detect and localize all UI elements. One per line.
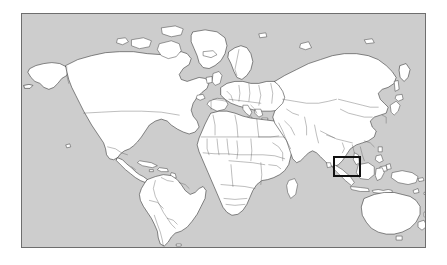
landmass-tasmania	[396, 236, 402, 240]
landmass-new-zealand-south	[418, 220, 425, 230]
landmass-hokkaido	[395, 94, 403, 101]
continent-asia	[273, 54, 410, 172]
landmass-jamaica	[149, 170, 153, 172]
landmass-kamchatka	[399, 64, 410, 82]
landmass-newfoundland	[196, 94, 205, 100]
world-map-svg	[22, 14, 425, 247]
landmass-solomon-islands	[418, 178, 424, 182]
landmass-new-siberian-islands	[364, 39, 374, 44]
landmass-fiji	[424, 191, 425, 194]
landmass-madagascar	[287, 179, 298, 199]
landmass-victoria-island	[131, 38, 151, 49]
landmass-hispaniola	[157, 168, 168, 172]
landmass-falklands	[176, 244, 181, 246]
landmass-japan	[390, 101, 400, 115]
border-korea	[382, 115, 386, 123]
landmass-new-guinea	[391, 171, 418, 185]
landmass-novaya-zemlya	[300, 42, 312, 50]
landmass-australia	[361, 192, 420, 234]
continent-south-america	[139, 175, 206, 247]
landmass-halmahera	[386, 164, 391, 170]
landmass-malay-peninsula	[353, 153, 359, 165]
landmass-taiwan	[378, 147, 382, 152]
landmass-asia-main	[273, 54, 396, 167]
landmass-sakhalin	[394, 80, 399, 91]
landmass-cuba	[137, 161, 157, 168]
landmass-iberia	[207, 98, 228, 111]
continent-north-america	[24, 26, 227, 183]
landmass-alaska	[28, 63, 69, 90]
landmass-hawaii	[66, 144, 71, 148]
landmass-new-zealand-north	[424, 210, 425, 219]
landmass-java	[350, 187, 369, 192]
landmass-greenland	[191, 30, 227, 69]
landmass-svalbard	[259, 33, 267, 38]
landmass-great-britain	[212, 72, 222, 86]
landmass-sumatra	[332, 165, 354, 186]
continent-oceania	[361, 178, 425, 240]
landmass-ellesmere-island	[161, 26, 183, 37]
border-indochina	[360, 147, 364, 161]
landmass-new-caledonia	[413, 189, 419, 194]
world-map-frame[interactable]	[21, 13, 426, 248]
landmass-south-america	[139, 175, 206, 246]
landmass-sulawesi	[375, 168, 384, 181]
landmass-philippines-luzon	[375, 155, 383, 163]
landmass-north-america-main	[66, 52, 209, 160]
landmass-aleutians	[24, 84, 33, 88]
landmass-sri-lanka	[326, 163, 331, 168]
landmass-borneo	[356, 163, 374, 180]
map-page	[0, 0, 447, 265]
landmass-scandinavia	[228, 46, 253, 80]
landmass-ireland	[206, 76, 212, 83]
landmass-banks-island	[117, 38, 129, 45]
